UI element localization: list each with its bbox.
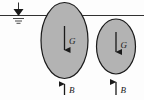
left-body-gravity-label: G bbox=[69, 36, 76, 46]
buoyancy-diagram: G B G B bbox=[0, 0, 144, 100]
right-body-group: G B bbox=[97, 19, 136, 95]
water-level-symbol bbox=[13, 3, 24, 24]
right-body-gravity-label: G bbox=[121, 40, 128, 50]
left-body-buoyancy-label: B bbox=[69, 85, 75, 95]
left-body-group: G B bbox=[41, 3, 88, 96]
right-body-buoyancy-label: B bbox=[121, 85, 127, 95]
diagram-canvas: G B G B bbox=[0, 0, 144, 100]
